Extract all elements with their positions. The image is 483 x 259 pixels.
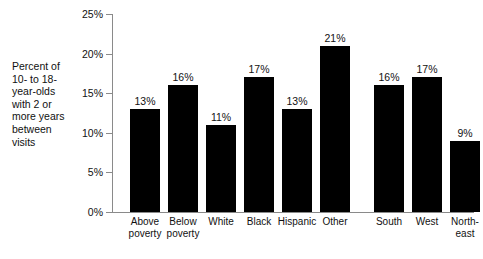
- bar: 16%: [168, 85, 198, 212]
- bar-value-label: 9%: [457, 127, 472, 139]
- bar: 17%: [244, 77, 274, 212]
- y-tick-label: 25%: [82, 8, 103, 20]
- x-axis-category-label: North- east: [451, 216, 479, 239]
- bar: 21%: [320, 46, 350, 212]
- y-axis-line: [112, 14, 113, 213]
- bar: 13%: [130, 109, 160, 212]
- y-tick-mark: [106, 133, 112, 134]
- y-tick-mark: [106, 172, 112, 173]
- bar-chart-figure: Percent of 10- to 18- year-olds with 2 o…: [0, 0, 483, 259]
- x-axis-category-label: West: [416, 216, 439, 228]
- y-tick-label: 10%: [82, 127, 103, 139]
- x-axis-category-label: Below poverty: [167, 216, 200, 239]
- x-axis-category-label: Hispanic: [278, 216, 316, 228]
- bar: 17%: [412, 77, 442, 212]
- x-axis-category-label: Black: [247, 216, 271, 228]
- y-tick-mark: [106, 54, 112, 55]
- bar: 9%: [450, 141, 480, 212]
- bar: 16%: [374, 85, 404, 212]
- y-tick-label: 20%: [82, 48, 103, 60]
- bar: 13%: [282, 109, 312, 212]
- plot-area: 0%5%10%15%20%25% 13%16%11%17%13%21%16%17…: [112, 14, 474, 213]
- y-tick-mark: [106, 14, 112, 15]
- y-tick-mark: [106, 93, 112, 94]
- bar-value-label: 11%: [211, 111, 231, 123]
- y-tick-label: 5%: [88, 166, 103, 178]
- x-axis-line: [112, 212, 474, 213]
- bar-value-label: 17%: [416, 63, 437, 75]
- bar-value-label: 13%: [134, 95, 155, 107]
- bar-value-label: 17%: [248, 63, 269, 75]
- x-axis-category-label: South: [376, 216, 402, 228]
- bar-value-label: 21%: [324, 32, 345, 44]
- bar-value-label: 16%: [378, 71, 399, 83]
- x-axis-category-label: White: [208, 216, 234, 228]
- bar-value-label: 13%: [286, 95, 307, 107]
- bar-value-label: 16%: [172, 71, 193, 83]
- x-axis-category-label: Above poverty: [129, 216, 162, 239]
- x-axis-category-label: Other: [322, 216, 347, 228]
- bar: 11%: [206, 125, 236, 212]
- y-tick-label: 15%: [82, 87, 103, 99]
- y-tick-label: 0%: [88, 206, 103, 218]
- y-tick-mark: [106, 212, 112, 213]
- chart-caption: Percent of 10- to 18- year-olds with 2 o…: [12, 60, 86, 148]
